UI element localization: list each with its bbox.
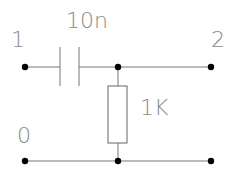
terminal-node-0-right bbox=[208, 158, 214, 164]
capacitor-symbol bbox=[60, 47, 79, 86]
label-node-0: 0 bbox=[17, 123, 31, 148]
terminal-node-2 bbox=[208, 64, 214, 70]
label-node-2: 2 bbox=[211, 27, 225, 52]
junction-node-bottom bbox=[115, 158, 121, 164]
label-resistor-value: 1K bbox=[140, 95, 169, 120]
label-node-1: 1 bbox=[11, 27, 25, 52]
terminal-node-0-left bbox=[22, 158, 28, 164]
junction-node-top bbox=[115, 64, 121, 70]
resistor-symbol bbox=[108, 86, 127, 143]
terminal-node-1 bbox=[22, 64, 28, 70]
label-capacitor-value: 10n bbox=[66, 8, 108, 33]
circuit-diagram: 1 10n 2 1K 0 bbox=[0, 0, 235, 176]
